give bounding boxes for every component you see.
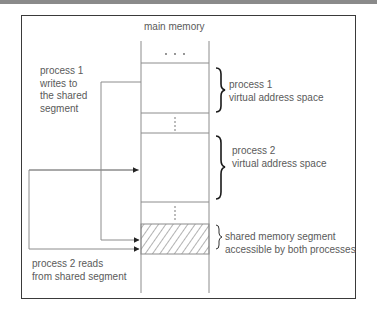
brace-icon-process1: [216, 68, 225, 112]
shared-segment-label: shared memory segment accessible by both…: [225, 231, 356, 256]
process1-writes-label: process 1 writes to the shared segment: [40, 65, 87, 115]
ellipsis-top: [165, 53, 185, 55]
memory-column: [141, 41, 209, 293]
process1-write-arrow: [101, 82, 141, 240]
brace-icon-shared: [216, 225, 222, 249]
brace-icon-process2: [216, 136, 225, 199]
main-memory-title: main memory: [144, 21, 205, 34]
ellipsis-gap-2: [174, 206, 176, 220]
process2-reads-label: process 2 reads from shared segment: [32, 258, 127, 283]
process2-read-arrow: [29, 170, 139, 249]
process1-space-label: process 1 virtual address space: [229, 79, 324, 104]
ellipsis-gap-1: [174, 117, 176, 131]
process2-space-label: process 2 virtual address space: [232, 145, 327, 170]
shared-segment-block: [141, 224, 209, 254]
